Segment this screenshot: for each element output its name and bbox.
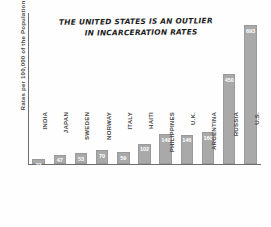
x-tick-label: INDIA xyxy=(41,112,48,168)
x-tick-label: U.S. xyxy=(253,112,260,168)
chart-title-line-1: THE UNITED STATES IS AN OUTLIER xyxy=(59,16,213,27)
x-tick-label: JAPAN xyxy=(62,112,69,168)
x-tick-label: ARGENTINA xyxy=(210,112,217,168)
incarceration-rates-bar-chart: Rates per 100,000 of the Population 2347… xyxy=(0,0,271,227)
x-tick-label: ITALY xyxy=(126,112,133,168)
x-tick-label: SWEDEN xyxy=(83,112,90,168)
x-tick-label: NORWAY xyxy=(105,112,112,168)
chart-title: THE UNITED STATES IS AN OUTLIER IN INCAR… xyxy=(48,16,224,39)
bar-value-label: 693 xyxy=(245,28,256,34)
y-axis-line xyxy=(28,13,29,165)
x-tick-label: U.K. xyxy=(189,112,196,168)
x-tick-label: RUSSIA xyxy=(232,112,239,168)
chart-title-line-2: IN INCARCERATION RATES xyxy=(48,27,224,39)
y-axis-label: Rates per 100,000 of the Population xyxy=(19,0,26,126)
bar-value-label: 450 xyxy=(224,77,235,83)
x-tick-label: HAITI xyxy=(147,112,154,168)
x-tick-label: PHILIPPINES xyxy=(168,112,175,168)
